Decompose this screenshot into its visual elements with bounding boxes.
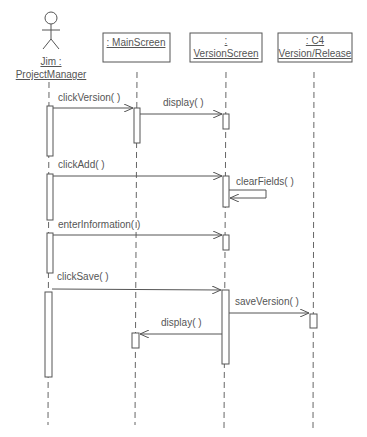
activation-version-3: [223, 235, 229, 250]
activation-actor-4: [45, 292, 52, 377]
message-label-clicksave: clickSave( ): [57, 271, 109, 282]
message-label-display-2: display( ): [161, 317, 202, 328]
message-label-enterinformation: enterInformation( ): [58, 219, 140, 230]
object-main-screen-label: : MainScreen: [107, 37, 166, 48]
activation-version-1: [223, 114, 229, 129]
object-c4-line1: : C4: [306, 35, 325, 46]
object-c4-line2: Version/Release: [279, 48, 352, 59]
message-arrow-clearfields: [229, 190, 266, 198]
lifeline-c4: [313, 72, 314, 428]
message-label-clickadd: clickAdd( ): [58, 159, 105, 170]
actor-icon: [42, 12, 60, 49]
message-arrow-clicksave: [52, 289, 221, 290]
sequence-diagram: Jim : ProjectManager : MainScreen : Vers…: [0, 0, 367, 437]
activation-main-1: [134, 108, 140, 143]
actor-name-line1: Jim :: [40, 56, 61, 67]
activation-actor-3: [47, 233, 53, 273]
object-version-screen-line1: :: [225, 35, 228, 46]
object-main-screen: : MainScreen: [103, 33, 170, 62]
message-label-clearfields: clearFields( ): [236, 176, 294, 187]
object-version-screen-line2: VersionScreen: [193, 48, 258, 59]
message-label-display-1: display( ): [163, 97, 204, 108]
activation-version-4: [222, 290, 229, 364]
activation-main-2: [132, 333, 139, 348]
activation-actor-2: [47, 174, 53, 220]
activation-c4-1: [310, 314, 317, 328]
activation-actor-1: [47, 106, 53, 156]
activation-version-2: [223, 176, 229, 207]
object-version-screen: : VersionScreen: [190, 33, 262, 62]
actor-name-line2: ProjectManager: [16, 69, 87, 80]
message-label-clickversion: clickVersion( ): [58, 92, 120, 103]
message-label-saveversion: saveVersion( ): [235, 296, 299, 307]
object-c4-version-release: : C4 Version/Release: [278, 33, 352, 62]
